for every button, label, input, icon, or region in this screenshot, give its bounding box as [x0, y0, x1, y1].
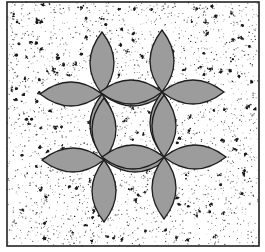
rosette-pattern-figure: [0, 0, 265, 252]
